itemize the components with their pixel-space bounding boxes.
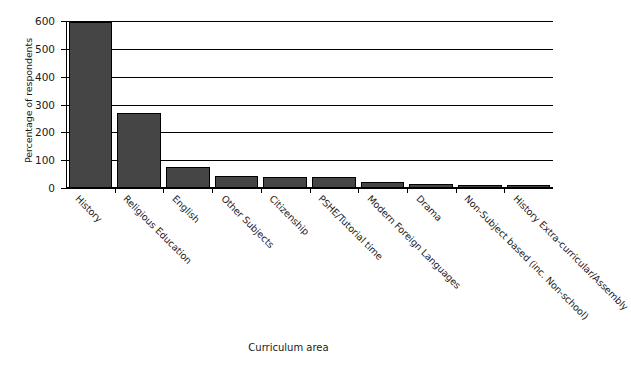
- bar: [69, 22, 113, 188]
- y-tick-label: 300: [35, 99, 55, 111]
- y-axis-title: Percentage of respondents: [23, 11, 34, 191]
- y-tick-label: 400: [35, 71, 55, 83]
- bar: [263, 177, 307, 188]
- x-axis-title: Curriculum area: [0, 342, 577, 353]
- x-axis-label: History: [73, 193, 104, 224]
- x-axis-label: Citizenship: [268, 193, 312, 237]
- x-axis-label: Drama: [414, 193, 444, 223]
- plot-area: 0100200300400500600: [66, 21, 553, 188]
- bar: [409, 184, 453, 188]
- bar: [215, 176, 259, 188]
- y-tick-label: 100: [35, 154, 55, 166]
- y-tick-label: 0: [48, 182, 55, 194]
- x-axis-label: Modern Foreign Languages: [365, 193, 463, 291]
- bar: [166, 167, 210, 188]
- bar: [458, 185, 502, 188]
- bar: [361, 182, 405, 188]
- x-axis-labels: HistoryReligious EducationEnglishOther S…: [66, 193, 553, 338]
- y-tick-label: 500: [35, 43, 55, 55]
- bar: [312, 177, 356, 188]
- bar-series: [66, 21, 553, 188]
- x-axis-label: English: [170, 193, 202, 225]
- y-tick-0: 0: [61, 188, 66, 189]
- bar: [507, 185, 551, 188]
- bar: [117, 113, 161, 188]
- y-tick-label: 200: [35, 126, 55, 138]
- y-tick-label: 600: [35, 15, 55, 27]
